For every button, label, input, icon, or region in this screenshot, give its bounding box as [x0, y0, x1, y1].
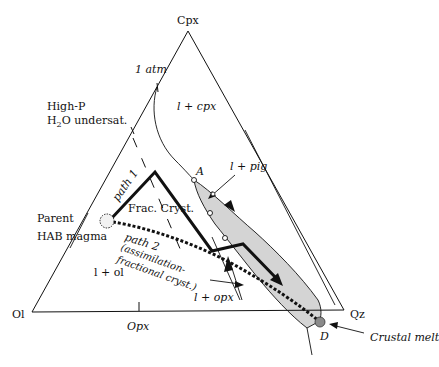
- one-atm-label: 1 atm: [135, 63, 167, 76]
- parent-magma-dot: [100, 214, 114, 228]
- vertex-cpx-label: Cpx: [177, 14, 199, 27]
- point-a-label: A: [195, 165, 204, 178]
- frac-cryst-label: Frac. Cryst.: [128, 202, 194, 215]
- crustal-melt-arrowhead: [329, 322, 338, 329]
- pig-field-marker-3: [211, 192, 215, 196]
- vertex-ol-label: Ol: [12, 308, 25, 321]
- vertex-qz-label: Qz: [350, 308, 365, 321]
- point-a-marker: [192, 178, 197, 183]
- path-1-label: path 1: [110, 167, 141, 204]
- edge-opx-label: Opx: [127, 320, 150, 333]
- parent-label-2: HAB magma: [37, 230, 108, 243]
- crustal-melt-label: Crustal melt: [370, 331, 439, 344]
- high-p-label-1: High-P: [47, 100, 86, 113]
- parent-label-1: Parent: [37, 212, 74, 225]
- l-ol-label: l + ol: [94, 266, 124, 279]
- d-tail-line: [307, 328, 312, 355]
- point-d-label: D: [319, 330, 329, 343]
- crustal-melt-dot: [315, 317, 325, 327]
- pig-field-marker-1: [208, 211, 213, 216]
- ternary-diagram: Cpx Ol Qz Opx 1 atm High-P H2O undersat.…: [0, 0, 439, 367]
- high-p-label-2: H2O undersat.: [47, 114, 127, 129]
- l-cpx-label: l + cpx: [177, 100, 217, 113]
- pig-field-marker-2: [223, 236, 228, 241]
- ternary-triangle: [32, 31, 344, 312]
- l-opx-label: l + opx: [194, 291, 234, 304]
- l-pig-label: l + pig: [230, 160, 267, 173]
